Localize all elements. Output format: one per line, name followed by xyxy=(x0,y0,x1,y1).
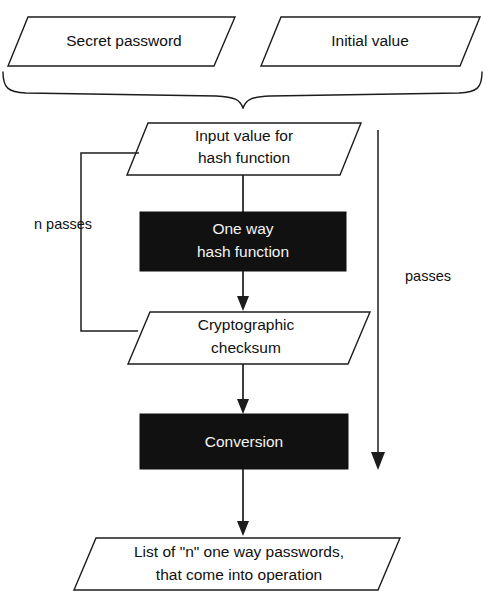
connector-hash-to-checksum xyxy=(237,271,249,311)
edge-label-passes: passes xyxy=(405,268,451,284)
node-input-value-line1: Input value for xyxy=(195,127,293,144)
node-conversion-label: Conversion xyxy=(205,433,283,450)
node-initial-value-label: Initial value xyxy=(331,32,409,49)
arrow-head-icon xyxy=(237,399,249,414)
edge-label-n-passes: n passes xyxy=(34,216,92,232)
flowchart-canvas: Secret password Initial value Input valu… xyxy=(0,0,485,599)
node-one-way-hash-line1: One way xyxy=(212,220,273,237)
node-one-way-hash-line2: hash function xyxy=(197,243,289,260)
node-output-list-line2: that come into operation xyxy=(156,566,322,583)
connector-right-passes-span xyxy=(371,130,385,470)
connector-conversion-to-output xyxy=(237,469,249,536)
connector-checksum-to-conversion xyxy=(237,364,249,414)
node-crypto-checksum-line1: Cryptographic xyxy=(198,316,295,333)
node-input-value-line2: hash function xyxy=(198,149,290,166)
connector-checksum-loop-back xyxy=(81,153,139,331)
arrow-head-icon xyxy=(237,296,249,311)
node-secret-password-label: Secret password xyxy=(66,32,181,49)
arrow-head-icon xyxy=(371,452,385,470)
flowchart-diagram: Secret password Initial value Input valu… xyxy=(0,0,485,599)
node-output-list-line1: List of "n" one way passwords, xyxy=(134,543,344,560)
node-crypto-checksum-line2: checksum xyxy=(211,339,281,356)
arrow-head-icon xyxy=(237,521,249,536)
connector-brace-merge xyxy=(3,72,482,108)
